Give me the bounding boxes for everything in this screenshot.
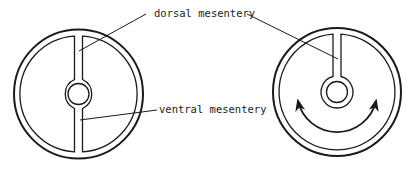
rotation-arrow [298,101,376,132]
outer-body-wall [273,28,401,156]
dorsal-leader-left [79,14,146,51]
ventral-mesentery-label: ventral mesentery [159,103,266,115]
left-cross-section [14,30,143,159]
mesentery-diagram: dorsal mesentery ventral mesentery [0,0,413,170]
outer-body-wall [14,30,143,159]
ventral-leader [80,110,157,120]
gut-tube [327,82,348,103]
right-cross-section [273,28,401,156]
gut-tube [68,84,89,105]
dorsal-mesentery-label: dorsal mesentery [154,7,255,19]
dorsal-leader-right [247,14,338,59]
